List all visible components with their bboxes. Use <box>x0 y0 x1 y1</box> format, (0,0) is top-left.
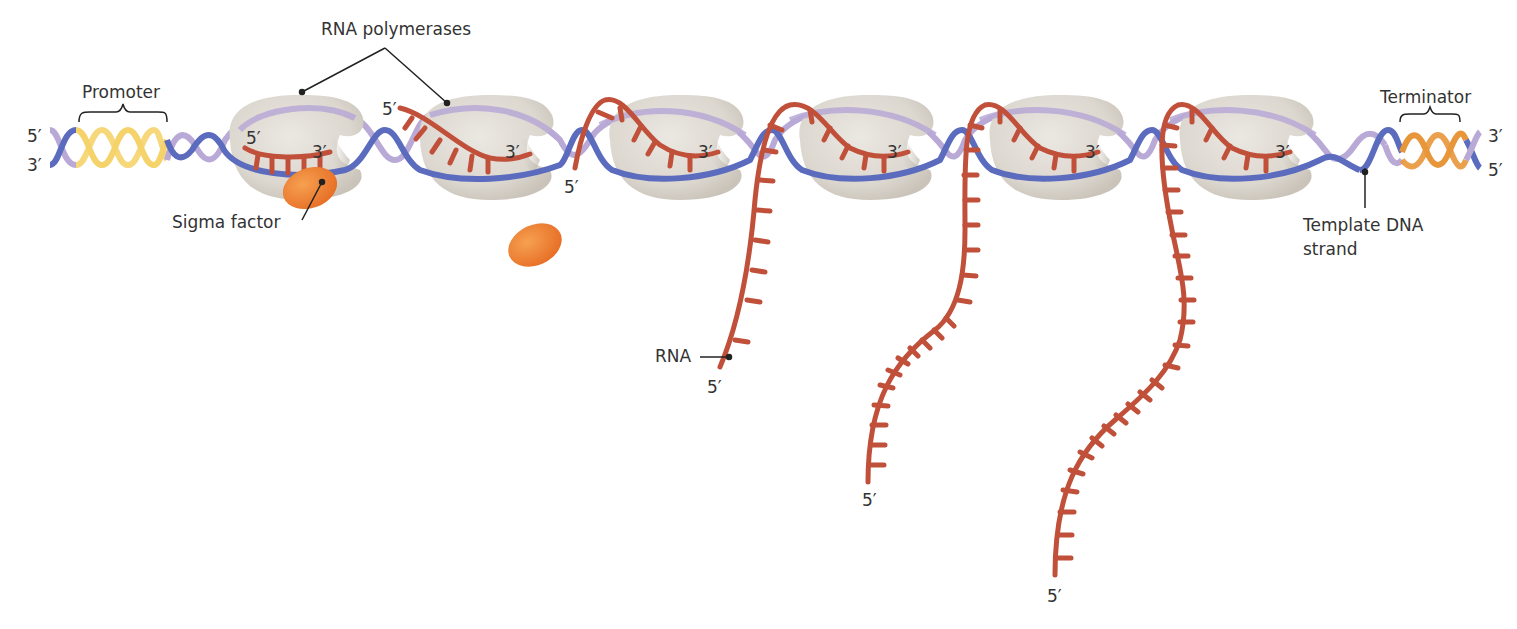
end-rna3-5: 5′ <box>1047 586 1062 606</box>
end-pol1-rna-3: 3′ <box>312 142 327 162</box>
label-promoter: Promoter <box>82 83 160 103</box>
label-template-dna-line2: strand <box>1303 240 1358 260</box>
label-sigma-factor: Sigma factor <box>172 213 281 233</box>
end-pol5-rna-3: 3′ <box>1085 142 1100 162</box>
end-pol2-rna-5: 5′ <box>382 99 397 119</box>
end-pol4-rna-3: 3′ <box>887 142 902 162</box>
transcription-diagram <box>0 0 1517 629</box>
label-rna-polymerases: RNA polymerases <box>321 20 471 40</box>
end-dna-right-top: 3′ <box>1488 126 1503 146</box>
end-pol3-rna-3: 3′ <box>698 142 713 162</box>
dna-left-flank <box>50 130 76 165</box>
end-rna2-5: 5′ <box>862 490 877 510</box>
end-pol6-rna-3: 3′ <box>1275 142 1290 162</box>
leader-lines <box>79 48 1460 360</box>
sigma-factor-released <box>501 215 569 275</box>
end-dna-left-bottom: 3′ <box>27 155 42 175</box>
end-pol3-rna-5: 5′ <box>564 177 579 197</box>
end-dna-right-bottom: 5′ <box>1488 160 1503 180</box>
label-rna: RNA <box>655 347 691 367</box>
end-rna1-5: 5′ <box>707 377 722 397</box>
end-pol2-rna-3: 3′ <box>505 142 520 162</box>
promoter-region <box>76 130 167 165</box>
end-dna-left-top: 5′ <box>27 126 42 146</box>
label-template-dna-line1: Template DNA <box>1303 216 1423 236</box>
end-pol1-rna-5: 5′ <box>246 128 261 148</box>
terminator-region <box>1402 132 1480 168</box>
label-terminator: Terminator <box>1380 88 1471 108</box>
